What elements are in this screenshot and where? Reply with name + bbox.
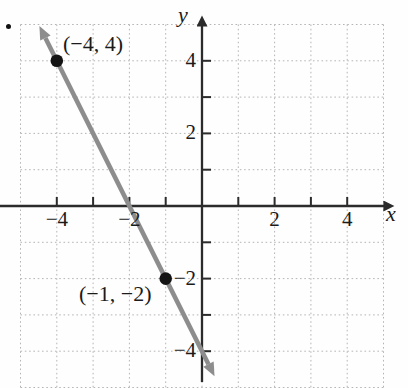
- plot-canvas: [0, 0, 408, 388]
- data-point: [51, 55, 64, 68]
- y-axis-label: y: [178, 3, 188, 27]
- y-tick-label-4: 4: [186, 49, 197, 72]
- coordinate-plane-figure: y x (−4, 4) (−1, −2) −4−22442−2−4: [0, 0, 408, 388]
- point-label-neg4-4: (−4, 4): [63, 32, 123, 56]
- graphed-line: [45, 38, 208, 364]
- y-tick-label--4: −4: [174, 340, 196, 363]
- y-tick-label--2: −2: [174, 267, 196, 290]
- x-axis-label: x: [386, 202, 396, 226]
- x-tick-label-4: 4: [342, 208, 353, 231]
- x-tick-label--4: −4: [46, 208, 68, 231]
- x-tick-label--2: −2: [118, 208, 140, 231]
- point-label-neg1-neg2: (−1, −2): [79, 282, 151, 306]
- y-tick-label-2: 2: [186, 122, 197, 145]
- x-tick-label-2: 2: [269, 208, 280, 231]
- data-point: [159, 272, 172, 285]
- stray-mark-dot: [6, 24, 11, 29]
